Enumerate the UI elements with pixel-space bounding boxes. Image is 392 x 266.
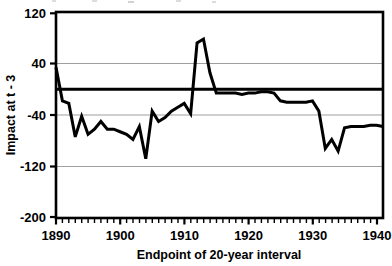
chart-canvas: 120 40 -40 -120 -200 1890 1900 1910 1920…	[0, 0, 392, 266]
y-tick-label-minus-200: -200	[20, 210, 46, 225]
x-tick-label-1910: 1910	[170, 228, 199, 243]
x-tick-label-1930: 1930	[298, 228, 327, 243]
y-tick-label-minus-40: -40	[27, 108, 46, 123]
chart-figure: 120 40 -40 -120 -200 1890 1900 1910 1920…	[0, 0, 392, 266]
x-tick-label-1940: 1940	[363, 228, 392, 243]
y-axis-title: Impact at t - 3	[4, 75, 18, 156]
y-tick-label-minus-120: -120	[20, 159, 46, 174]
x-tick-label-1900: 1900	[106, 228, 135, 243]
x-axis-title: Endpoint of 20-year interval	[137, 248, 302, 262]
y-tick-label-40: 40	[32, 56, 46, 71]
cropped-title-remnant	[52, 0, 216, 3]
x-tick-label-1890: 1890	[42, 228, 71, 243]
y-tick-label-120: 120	[24, 6, 46, 21]
x-tick-label-1920: 1920	[234, 228, 263, 243]
